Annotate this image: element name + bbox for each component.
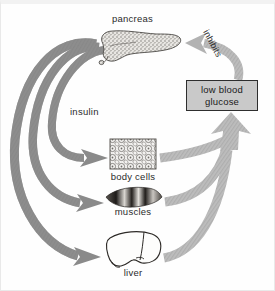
diagram-canvas	[0, 0, 275, 291]
glucose-box-line-1: low blood	[201, 84, 243, 96]
label-muscles: muscles	[103, 206, 163, 217]
label-liver: liver	[105, 267, 161, 278]
pancreas-organ-icon	[99, 31, 181, 65]
label-insulin: insulin	[70, 106, 99, 117]
low-blood-glucose-box: low blood glucose	[186, 80, 258, 111]
label-body-cells: body cells	[98, 171, 168, 182]
arrow-body-cells-to-glucose	[160, 140, 226, 158]
liver-organ-icon	[106, 232, 160, 268]
insulin-feedback-diagram: pancreas insulin body cells muscles live…	[0, 0, 275, 291]
glucose-arrow-group	[160, 112, 251, 258]
body-cells-tissue-icon	[110, 139, 156, 169]
muscle-fibre-icon	[106, 187, 162, 207]
label-pancreas: pancreas	[0, 13, 265, 24]
glucose-box-line-2: glucose	[205, 96, 239, 108]
insulin-arrow-group	[14, 43, 108, 266]
